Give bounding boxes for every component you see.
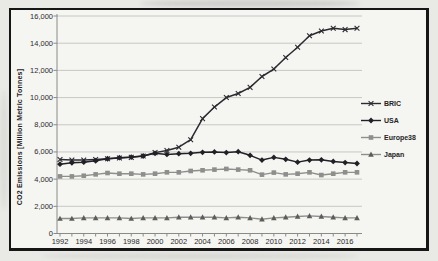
x-tick-label: 1994 [71,237,97,246]
diamond-marker-icon [360,116,382,125]
y-tick-label: 10,000 [21,93,53,102]
x-tick-label: 2012 [285,237,311,246]
y-tick-label: 16,000 [21,12,53,21]
legend-item-bric: BRIC [360,95,416,112]
chart-legend: BRICUSAEurope38Japan [360,95,416,163]
series-europe38 [58,167,360,179]
x-tick-label: 1996 [95,237,121,246]
series-bric [58,26,360,163]
x-tick-label: 2006 [213,237,239,246]
x-tick-label: 2016 [332,237,358,246]
scanned-figure: CO2 Emissions [Million Metric Tonnes] 02… [0,0,438,261]
legend-label: Europe38 [384,134,416,141]
y-axis-title: CO2 Emissions [Million Metric Tonnes] [16,69,23,205]
series-japan [57,213,360,222]
y-tick-label: 14,000 [21,39,53,48]
x-tick-label: 2008 [237,237,263,246]
x-tick-label: 2004 [190,237,216,246]
y-tick-label: 12,000 [21,66,53,75]
triangle-marker-icon [360,150,382,159]
y-tick-label: 6,000 [21,147,53,156]
square-marker-icon [360,133,382,142]
legend-label: Japan [384,151,404,158]
legend-item-japan: Japan [360,146,416,163]
x-tick-label: 2010 [261,237,287,246]
x-tick-label: 1992 [47,237,73,246]
x-tick-label: 1998 [118,237,144,246]
legend-item-usa: USA [360,112,416,129]
x-tick-label: 2000 [142,237,168,246]
y-tick-label: 8,000 [21,120,53,129]
legend-label: BRIC [384,100,401,107]
y-tick-label: 2,000 [21,202,53,211]
y-tick-label: 4,000 [21,175,53,184]
x-tick-label: 2002 [166,237,192,246]
legend-label: USA [384,117,399,124]
x-tick-label: 2014 [308,237,334,246]
x-marker-icon [360,99,382,108]
legend-item-europe38: Europe38 [360,129,416,146]
